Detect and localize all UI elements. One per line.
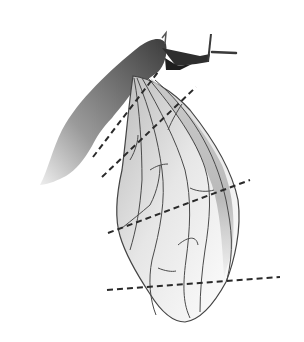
wing-illustration	[0, 0, 304, 342]
insect-wing-diagram	[0, 0, 304, 342]
appendage-spine	[208, 34, 211, 62]
appendage-tip	[212, 52, 236, 53]
